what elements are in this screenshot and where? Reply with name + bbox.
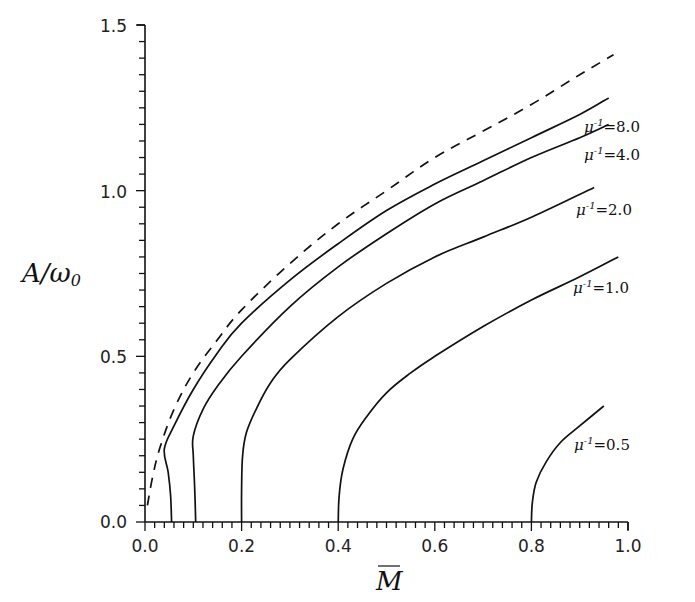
axes (137, 25, 628, 530)
y-tick-label-0: 0.0 (100, 512, 127, 532)
x-axis-title-text: M (375, 566, 404, 596)
x-tick-label-2: 0.4 (325, 536, 352, 556)
label-mu-0-5: μ-1=0.5 (574, 435, 630, 454)
y-ticks (136, 25, 145, 522)
x-tick-label-1: 0.2 (228, 536, 255, 556)
y-axis-title: A/ω0 (20, 258, 81, 290)
y-tick-label-2: 1.0 (100, 182, 127, 202)
dashed-limit-curve (147, 55, 613, 506)
x-ticks (145, 522, 628, 531)
curves (147, 55, 618, 522)
label-mu-4: μ-1=4.0 (584, 145, 640, 164)
curve-series-1 (164, 98, 609, 522)
y-axis-title-text: A/ω0 (20, 258, 81, 290)
x-tick-label-0: 0.0 (131, 536, 158, 556)
curve-series-5 (531, 406, 603, 522)
x-tick-label-4: 0.8 (518, 536, 545, 556)
x-tick-label-5: 1.0 (614, 536, 641, 556)
label-mu-8: μ-1=8.0 (584, 117, 640, 136)
x-tick-label-3: 0.6 (421, 536, 448, 556)
y-tick-label-1: 0.5 (100, 347, 127, 367)
label-mu-2: μ-1=2.0 (576, 200, 632, 219)
x-axis-title: M (375, 566, 404, 596)
chart-plot: 0.0 0.2 0.4 0.6 0.8 1.0 0.0 0.5 1.0 1.5 … (0, 0, 695, 602)
y-tick-label-3: 1.5 (100, 16, 127, 36)
label-mu-1: μ-1=1.0 (573, 278, 629, 297)
